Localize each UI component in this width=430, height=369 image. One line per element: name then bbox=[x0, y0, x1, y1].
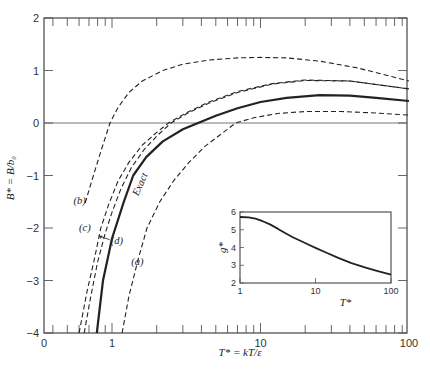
y-tick-label: 1 bbox=[33, 65, 39, 77]
plot-border bbox=[44, 18, 407, 333]
inset-y-tick-label: 2 bbox=[231, 278, 236, 288]
annotation-c: (c) bbox=[79, 222, 91, 234]
inset-x-tick-label: 100 bbox=[383, 286, 398, 296]
annotation-d: (d) bbox=[111, 235, 124, 247]
main-axis-ticks bbox=[44, 18, 407, 333]
y-axis-label: B* = B/b₀ bbox=[4, 156, 16, 200]
inset-y-tick-label: 4 bbox=[231, 243, 236, 253]
series-b bbox=[85, 57, 409, 202]
inset-x-tick-label: 1 bbox=[237, 286, 242, 296]
annotation-a: (a) bbox=[131, 256, 144, 268]
main-series bbox=[79, 57, 409, 333]
x-tick-label: 1 bbox=[109, 337, 115, 349]
x-axis-label: T* = kT/ε bbox=[219, 346, 263, 358]
inset-x-tick-label: 10 bbox=[310, 286, 320, 296]
annotation-exact: Exact bbox=[130, 170, 151, 198]
curve-annotations: Exact(a)(b)(c)(d) bbox=[73, 170, 150, 268]
inset-y-tick-label: 3 bbox=[231, 260, 236, 270]
chart-canvas: 0110100210−1−2−3−4 Exact(a)(b)(c)(d) 110… bbox=[0, 0, 430, 369]
inset-y-tick-label: 5 bbox=[231, 225, 236, 235]
x-tick-label: 0 bbox=[41, 337, 47, 349]
y-tick-label: −2 bbox=[26, 222, 39, 234]
y-tick-label: −4 bbox=[26, 327, 39, 339]
y-tick-label: −1 bbox=[26, 170, 39, 182]
inset-x-axis-label: T* bbox=[340, 296, 352, 308]
inset-plot: 11010023456T*g* bbox=[216, 207, 399, 308]
annotation-b: (b) bbox=[73, 195, 86, 207]
inset-y-axis-label: g* bbox=[216, 242, 228, 254]
y-tick-label: 0 bbox=[33, 117, 39, 129]
series-d bbox=[84, 81, 409, 334]
y-tick-label: 2 bbox=[33, 12, 39, 24]
y-tick-label: −3 bbox=[26, 275, 39, 287]
series-c bbox=[79, 80, 409, 333]
inset-y-tick-label: 6 bbox=[231, 207, 236, 217]
x-tick-label: 100 bbox=[400, 337, 418, 349]
main-plot-frame bbox=[44, 18, 407, 333]
